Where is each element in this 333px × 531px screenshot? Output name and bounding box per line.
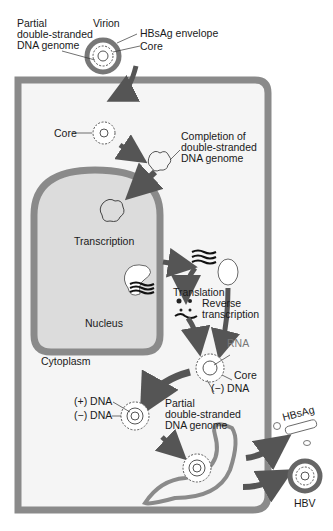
hbsag-particles-icon — [274, 419, 318, 446]
label-minus-dna-left: (−) DNA — [74, 410, 112, 421]
label-minus-dna-right: (−) DNA — [211, 383, 249, 394]
label-virion-core: Core — [140, 41, 163, 52]
label-reverse-transcription: Reverse transcription — [202, 298, 259, 320]
label-core-rna: Core — [234, 370, 257, 381]
hbv-virion-icon — [290, 461, 320, 491]
label-virion-partial-genome: Partial double-stranded DNA genome — [17, 18, 93, 51]
label-plus-dna: (+) DNA — [74, 396, 112, 407]
label-virion: Virion — [93, 18, 120, 29]
label-cytoplasm: Cytoplasm — [41, 356, 91, 367]
label-transcription: Transcription — [74, 236, 134, 247]
label-rna: RNA — [227, 338, 249, 349]
core-icon — [93, 122, 115, 144]
hbv-replication-diagram: Partial double-stranded DNA genome Virio… — [0, 0, 333, 531]
label-nucleus: Nucleus — [85, 318, 123, 329]
dna-core-icon — [121, 402, 149, 430]
rna-core-icon — [196, 354, 224, 382]
label-hbsag-envelope: HBsAg envelope — [140, 28, 218, 39]
label-partial-genome-lower: Partial double-stranded DNA genome — [165, 398, 241, 431]
label-completion: Completion of double-stranded DNA genome — [181, 131, 257, 164]
budding-core-icon — [183, 454, 211, 482]
pgrna-icon — [218, 259, 238, 285]
label-core: Core — [54, 128, 77, 139]
diagram-graphics — [0, 0, 333, 531]
label-hbv: HBV — [294, 498, 316, 509]
export-arrow — [163, 262, 183, 265]
